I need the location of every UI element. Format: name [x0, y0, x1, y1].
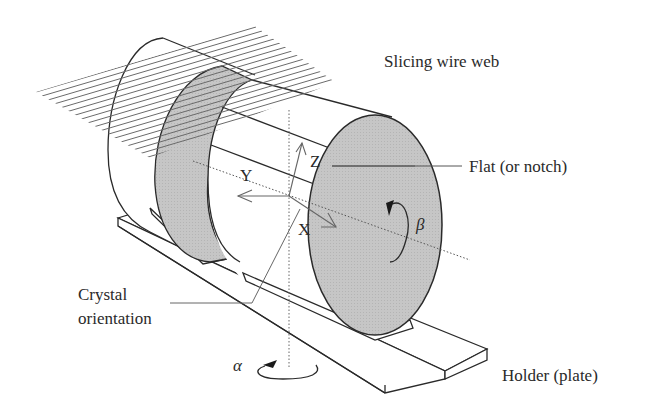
- label-slicing-wire-web: Slicing wire web: [384, 52, 499, 71]
- alpha-rotation-arrow-icon: [258, 360, 318, 379]
- label-crystal: Crystal: [78, 285, 127, 304]
- label-orientation: orientation: [78, 309, 152, 328]
- axis-label-x: X: [298, 220, 310, 239]
- label-holder-plate: Holder (plate): [502, 366, 598, 385]
- axis-label-z: Z: [310, 152, 320, 171]
- axis-label-y: Y: [240, 166, 252, 185]
- figure-canvas: Z Y X β α Slicing wire web Flat (or notc…: [0, 0, 655, 416]
- beta-label: β: [415, 215, 425, 234]
- alpha-label: α: [233, 356, 243, 375]
- ingot-front-face: [308, 115, 462, 335]
- label-flat-or-notch: Flat (or notch): [469, 157, 567, 176]
